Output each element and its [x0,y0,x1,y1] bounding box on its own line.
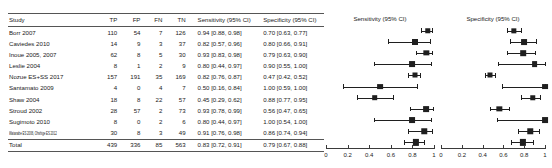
estimate-marker [425,28,430,33]
table-header-row: Study TP FP FN TN Sensitivity (95% CI) S… [8,14,324,27]
cell-sensitivity: 0.93 [0.78, 0.99] [193,105,259,116]
cell-specificity: 1.00 [0.54, 1.00] [258,117,324,128]
ci-cap-upper [521,28,522,33]
ci-cap-lower [502,84,503,89]
cell-study: Inoue 2005, 2007 [8,49,101,60]
forest-plot-row [326,126,434,137]
estimate-marker [372,95,378,101]
confidence-interval-line [374,120,431,121]
estimate-marker [521,39,527,45]
cell-study: Total [8,139,101,151]
forest-plot-row [326,92,434,103]
results-table-panel: Study TP FP FN TN Sensitivity (95% CI) S… [8,13,324,152]
cell-study-compressed: Watanabe ES 2006, Ohshige ES 2012 [9,131,57,137]
confidence-interval-line [410,109,433,110]
specificity-plot-panel: Specificity (95% CI) 00.20.40.60.81 [441,13,545,164]
forest-plot-row [441,47,545,58]
cell-specificity: 0.56 [0.47, 0.65] [258,105,324,116]
ci-cap-upper [495,73,496,78]
ci-cap-lower [507,28,508,33]
ci-cap-upper [433,107,434,112]
cell-tp: 439 [101,139,124,151]
ci-cap-upper [393,95,394,100]
forest-plot-row [326,115,434,126]
cell-study: Stroud 2002 [8,105,101,116]
cell-fp: 191 [124,72,147,83]
cell-tp: 8 [101,61,124,72]
specificity-plot-title: Specificity (95% CI) [441,13,545,25]
cell-tn: 6 [169,117,192,128]
cell-fn: 5 [147,49,169,60]
cell-tp: 30 [101,128,124,140]
cell-tp: 18 [101,94,124,105]
estimate-marker [542,117,548,123]
ci-cap-upper [424,140,425,145]
cell-fp: 336 [124,139,147,151]
forest-plot-row [326,25,434,36]
forest-plot-row [441,92,545,103]
axis-tick-label: 0.8 [408,152,416,158]
axis-tick-label: 1 [432,152,435,158]
axis-tick-label: 1 [543,152,546,158]
cell-sensitivity: 0.80 [0.44, 0.97] [193,117,259,128]
cell-tp: 62 [101,49,124,60]
ci-cap-upper [533,140,534,145]
cell-tp: 14 [101,38,124,49]
ci-cap-lower [374,62,375,67]
estimate-marker [497,106,502,111]
cell-specificity: 0.88 [0.77, 0.95] [258,94,324,105]
ci-cap-upper [417,84,418,89]
estimate-marker [530,95,535,100]
axis-tick-label: 0.6 [499,152,507,158]
cell-study: Sugimoto 2010 [8,117,101,128]
ci-cap-upper [432,129,433,134]
cell-fn: 85 [147,139,169,151]
axis-tick [391,145,392,148]
forest-plot-row [441,59,545,70]
axis-tick-label: 0.2 [343,152,351,158]
cell-specificity: 0.70 [0.63, 0.77] [258,27,324,39]
ci-cap-lower [408,129,409,134]
forest-plot-row [326,59,434,70]
cell-study: Shaw 2004 [8,94,101,105]
axis-tick [412,145,413,148]
forest-plot-row [326,103,434,114]
cell-sensitivity: 0.82 [0.76, 0.87] [193,72,259,83]
ci-cap-lower [408,73,409,78]
axis-tick [348,145,349,148]
axis-tick [326,145,327,148]
cell-fn: 22 [147,94,169,105]
cell-tn: 7 [169,83,192,94]
axis-tick-label: 0 [439,152,442,158]
estimate-marker [424,106,430,112]
axis-tick [503,145,504,148]
column-header-sensitivity: Sensitivity (95% CI) [193,14,259,27]
results-table: Study TP FP FN TN Sensitivity (95% CI) S… [8,13,324,152]
ci-cap-lower [388,39,389,44]
ci-cap-lower [421,28,422,33]
cell-fp: 57 [124,105,147,116]
cell-fn: 2 [147,105,169,116]
axis-tick [462,145,463,148]
table-row: Leslie 200481290.80 [0.44, 0.97]0.90 [0.… [8,61,324,72]
table-row: Shaw 200418822570.45 [0.29, 0.62]0.88 [0… [8,94,324,105]
cell-specificity: 0.79 [0.63, 0.90] [258,49,324,60]
axis-tick [524,145,525,148]
axis-tick [441,145,442,148]
axis-tick [483,145,484,148]
axis-tick-label: 0.4 [478,152,486,158]
ci-cap-lower [410,107,411,112]
ci-cap-lower [510,39,511,44]
estimate-marker [409,117,415,123]
estimate-marker [422,129,427,134]
specificity-axis-line [441,148,545,149]
cell-fn: 3 [147,128,169,140]
confidence-interval-line [408,131,432,132]
table-row: Inoue 2005, 20076285300.93 [0.83, 0.98]0… [8,49,324,60]
forest-plot-row [441,25,545,36]
column-header-study: Study [8,14,101,27]
estimate-marker [424,50,429,55]
axis-tick-label: 0.4 [365,152,373,158]
cell-specificity: 0.47 [0.42, 0.52] [258,72,324,83]
forest-plot-row [441,137,545,148]
